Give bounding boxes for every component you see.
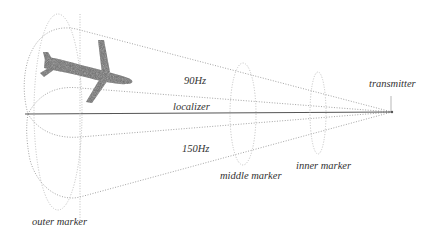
middle-marker-beam (230, 63, 256, 165)
lobe-150hz-inner-outline (28, 112, 392, 137)
ils-diagram: 90Hz localizer 150Hz transmitter outer m… (0, 0, 434, 240)
outer-marker-beam (34, 14, 82, 210)
lobe-90hz-inner-outline (28, 87, 392, 114)
label-transmitter: transmitter (369, 78, 417, 89)
label-90hz: 90Hz (184, 75, 206, 86)
label-inner-marker: inner marker (296, 160, 352, 171)
transmitter-point (391, 111, 393, 113)
label-outer-marker: outer marker (32, 216, 88, 227)
label-150hz: 150Hz (182, 143, 209, 154)
label-localizer: localizer (173, 101, 211, 112)
label-middle-marker: middle marker (220, 170, 282, 181)
inner-marker-beam (310, 72, 326, 154)
airplane-icon (40, 40, 132, 103)
